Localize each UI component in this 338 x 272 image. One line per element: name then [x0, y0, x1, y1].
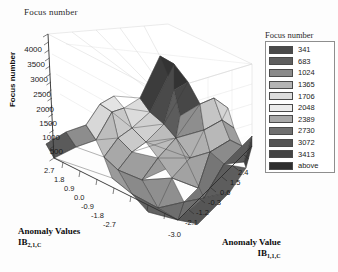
legend-swatch — [269, 92, 293, 100]
right-axis-caption-text: Anomaly Value — [222, 237, 281, 247]
left-axis-caption: Anomaly Values IB2,1,C — [18, 226, 80, 251]
legend-label: 2389 — [298, 115, 315, 124]
legend-swatch — [269, 162, 293, 170]
right-axis-tick--1.2: -1.2 — [196, 208, 209, 217]
legend-row: 3413 — [269, 148, 331, 160]
legend-swatch — [269, 46, 293, 54]
z-tick-3500: 3500 — [11, 60, 45, 69]
legend-label: 1365 — [298, 80, 315, 89]
left-axis-caption-text: Anomaly Values — [18, 226, 80, 236]
legend-title: Focus number — [265, 30, 313, 40]
legend-label: 1024 — [298, 68, 315, 77]
legend-swatch — [269, 115, 293, 123]
z-tick-3000: 3000 — [14, 75, 48, 84]
z-tick-500: 500 — [29, 147, 63, 156]
legend-label: 3072 — [298, 138, 315, 147]
legend-label: 1706 — [298, 92, 315, 101]
legend-row: 1365 — [269, 79, 331, 91]
legend-row: 1024 — [269, 67, 331, 79]
legend-row: 2730 — [269, 125, 331, 137]
legend-swatch — [269, 104, 293, 112]
legend-swatch — [269, 57, 293, 65]
left-axis-tick-0.9: 0.9 — [64, 184, 74, 193]
legend-row: 341 — [269, 44, 331, 56]
left-axis-tick--2.7: -2.7 — [103, 220, 116, 229]
legend-label: above — [298, 161, 318, 170]
left-axis-caption-symbol: IB — [18, 237, 28, 247]
left-axis-tick--0.9: -0.9 — [81, 202, 94, 211]
z-tick-1500: 1500 — [23, 119, 57, 128]
legend-swatch — [269, 150, 293, 158]
legend-swatch — [269, 127, 293, 135]
left-axis-tick-1.8: 1.8 — [54, 175, 64, 184]
legend-swatch — [269, 69, 293, 77]
right-axis-tick-0.6: 0.6 — [220, 188, 230, 197]
legend-row: 683 — [269, 56, 331, 68]
legend-swatch — [269, 81, 293, 89]
right-axis-tick--3.0: -3.0 — [168, 230, 181, 239]
legend-row: above — [269, 160, 331, 172]
right-axis-caption-symbol: IB — [257, 248, 267, 258]
left-axis-tick-0.0: 0.0 — [74, 193, 84, 202]
legend-row: 2389 — [269, 114, 331, 126]
z-tick-1000: 1000 — [26, 133, 60, 142]
legend-label: 3413 — [298, 150, 315, 159]
legend-label: 2730 — [298, 126, 315, 135]
legend-row: 2048 — [269, 102, 331, 114]
right-axis-tick-2.4: 2.4 — [238, 168, 248, 177]
legend-label: 2048 — [298, 103, 315, 112]
legend-label: 683 — [298, 57, 311, 66]
z-tick-2000: 2000 — [20, 105, 54, 114]
surface-plot-figure: Focus number — [0, 0, 338, 272]
right-axis-caption: Anomaly Value IB1,1,C — [222, 237, 281, 262]
left-axis-caption-subscript: 2,1,C — [28, 242, 42, 248]
legend-swatch — [269, 139, 293, 147]
right-axis-tick-1.5: 1.5 — [230, 178, 240, 187]
left-axis-tick--1.8: -1.8 — [91, 211, 104, 220]
right-axis-caption-subscript: 1,1,C — [267, 253, 281, 259]
z-tick-4000: 4000 — [8, 45, 42, 54]
legend-row: 3072 — [269, 137, 331, 149]
legend-row: 1706 — [269, 90, 331, 102]
legend-box: 34168310241365170620482389273030723413ab… — [265, 41, 335, 173]
right-axis-tick--2.1: -2.1 — [185, 218, 198, 227]
left-axis-tick-2.7: 2.7 — [44, 166, 54, 175]
right-axis-tick--0.3: -0.3 — [208, 198, 221, 207]
legend-label: 341 — [298, 45, 311, 54]
z-tick-2500: 2500 — [17, 90, 51, 99]
